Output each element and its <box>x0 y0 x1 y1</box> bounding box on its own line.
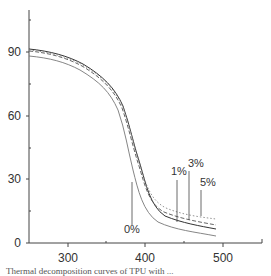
series-1pct <box>29 49 216 229</box>
annotation-0pct: 0% <box>124 223 140 235</box>
series <box>29 49 216 236</box>
x-tick-300: 300 <box>58 251 78 265</box>
x-tick-400: 400 <box>135 251 155 265</box>
annotation-3pct: 3% <box>188 157 204 169</box>
y-tick-30: 30 <box>8 172 22 186</box>
tick-labels: 90 60 30 0 300 400 500 <box>8 45 234 265</box>
series-3pct <box>29 51 216 225</box>
y-tick-0: 0 <box>14 236 21 250</box>
series-5pct <box>29 50 216 219</box>
x-tick-500: 500 <box>213 251 233 265</box>
annotation-5pct: 5% <box>200 176 216 188</box>
axes <box>26 10 262 247</box>
figure-caption: Thermal decomposition curves of TPU with… <box>6 266 174 276</box>
y-tick-60: 60 <box>8 109 22 123</box>
y-tick-90: 90 <box>8 45 22 59</box>
annotation-1pct: 1% <box>171 165 187 177</box>
series-0pct <box>29 56 216 236</box>
